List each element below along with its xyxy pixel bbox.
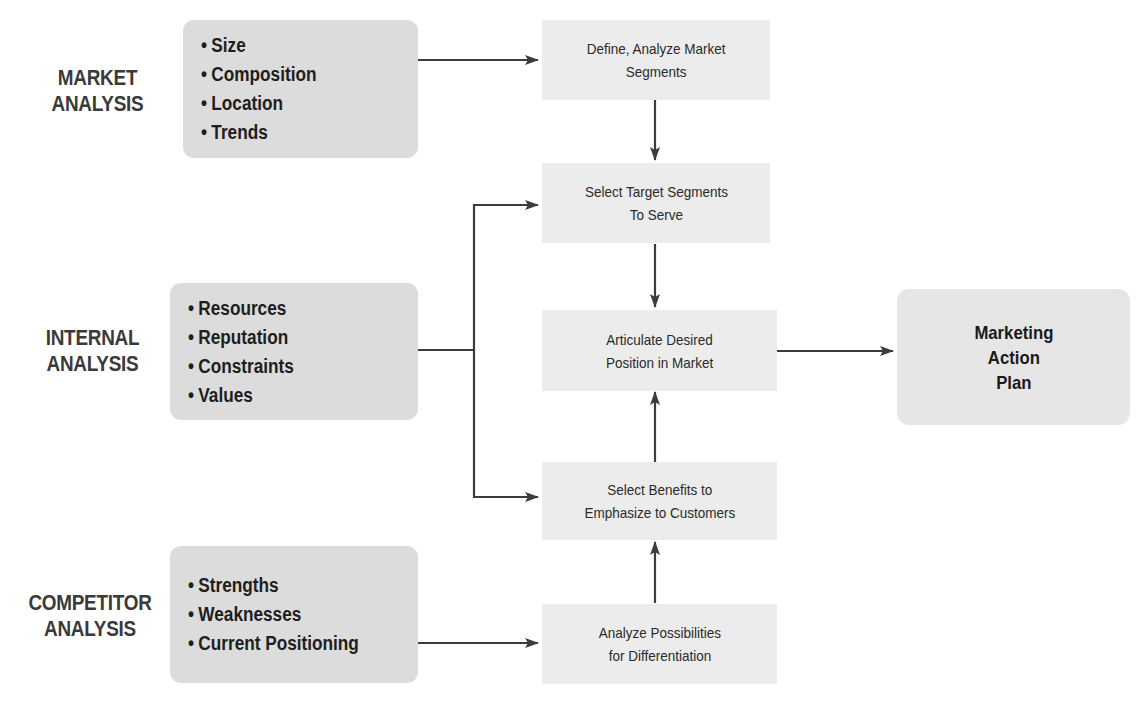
internal-analysis-box: Resources Reputation Constraints Values — [170, 283, 418, 420]
competitor-analysis-label: COMPETITOR ANALYSIS — [21, 590, 159, 642]
internal-item-resources: Resources — [188, 294, 386, 323]
market-item-trends: Trends — [201, 118, 388, 147]
step-analyze-differentiation: Analyze Possibilities for Differentiatio… — [542, 604, 777, 684]
internal-item-constraints: Constraints — [188, 352, 386, 381]
internal-analysis-items: Resources Reputation Constraints Values — [188, 294, 418, 410]
market-analysis-box: Size Composition Location Trends — [183, 20, 418, 158]
step-select-benefits: Select Benefits to Emphasize to Customer… — [542, 462, 777, 540]
step-select-target-segments: Select Target Segments To Serve — [542, 163, 770, 243]
competitor-analysis-items: Strengths Weaknesses Current Positioning — [188, 571, 418, 658]
competitor-item-weaknesses: Weaknesses — [188, 600, 386, 629]
internal-item-values: Values — [188, 381, 386, 410]
internal-item-reputation: Reputation — [188, 323, 386, 352]
competitor-item-strengths: Strengths — [188, 571, 386, 600]
market-item-location: Location — [201, 89, 388, 118]
competitor-analysis-box: Strengths Weaknesses Current Positioning — [170, 546, 418, 683]
market-item-size: Size — [201, 31, 388, 60]
positioning-flowchart: MARKET ANALYSIS INTERNAL ANALYSIS COMPET… — [0, 0, 1147, 705]
marketing-action-plan-box: Marketing Action Plan — [897, 289, 1130, 425]
step-articulate-position: Articulate Desired Position in Market — [542, 310, 777, 391]
market-item-composition: Composition — [201, 60, 388, 89]
internal-analysis-label: INTERNAL ANALYSIS — [34, 325, 150, 377]
market-analysis-label: MARKET ANALYSIS — [39, 65, 155, 117]
step-define-segments: Define, Analyze Market Segments — [542, 20, 770, 100]
competitor-item-current-positioning: Current Positioning — [188, 629, 386, 658]
market-analysis-items: Size Composition Location Trends — [201, 31, 418, 147]
